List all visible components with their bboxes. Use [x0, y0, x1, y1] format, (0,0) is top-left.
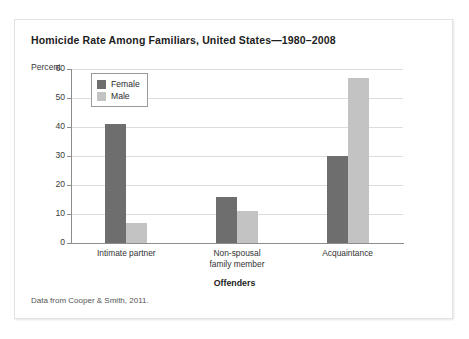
- y-axis-line: [71, 69, 72, 244]
- y-axis-tick: [67, 98, 71, 99]
- legend-label-male: Male: [111, 91, 130, 101]
- bar-male-acquaintance: [348, 78, 369, 243]
- gridline: [71, 69, 403, 70]
- y-axis-tick: [67, 127, 71, 128]
- y-axis-tick-label: 50: [43, 93, 65, 102]
- x-axis-category-label: Acquaintance: [283, 248, 413, 259]
- y-axis-tick-label: 60: [43, 64, 65, 73]
- y-axis-tick: [67, 69, 71, 70]
- bar-male-non-spousal-family-member: [237, 211, 258, 243]
- y-axis-tick: [67, 156, 71, 157]
- x-axis-category-label-line: Acquaintance: [283, 248, 413, 259]
- chart-legend: Female Male: [91, 73, 148, 107]
- legend-swatch-female-icon: [97, 80, 106, 89]
- y-axis-tick-label: 0: [43, 238, 65, 247]
- bar-female-acquaintance: [327, 156, 348, 243]
- y-axis-tick-label: 30: [43, 151, 65, 160]
- y-axis-tick-labels: 0102030405060: [39, 69, 65, 244]
- y-axis-tick-label: 10: [43, 209, 65, 218]
- y-axis-tick-label: 20: [43, 180, 65, 189]
- bar-female-intimate-partner: [105, 124, 126, 243]
- x-axis-title: Offenders: [15, 278, 454, 288]
- legend-swatch-male-icon: [97, 92, 106, 101]
- page-title: Homicide Rate Among Familiars, United St…: [31, 34, 336, 46]
- legend-label-female: Female: [111, 79, 140, 89]
- figure-card: Homicide Rate Among Familiars, United St…: [14, 19, 453, 319]
- y-axis-tick: [67, 185, 71, 186]
- legend-item-male: Male: [97, 90, 140, 102]
- bar-male-intimate-partner: [126, 223, 147, 243]
- legend-item-female: Female: [97, 78, 140, 90]
- y-axis-tick-label: 40: [43, 122, 65, 131]
- figure-page: Homicide Rate Among Familiars, United St…: [0, 0, 469, 339]
- x-axis-line: [71, 243, 404, 244]
- source-note: Data from Cooper & Smith, 2011.: [31, 296, 149, 305]
- bar-female-non-spousal-family-member: [216, 197, 237, 243]
- y-axis-tick: [67, 214, 71, 215]
- x-axis-category-label-line: family member: [172, 259, 302, 270]
- y-axis-tick: [67, 243, 71, 244]
